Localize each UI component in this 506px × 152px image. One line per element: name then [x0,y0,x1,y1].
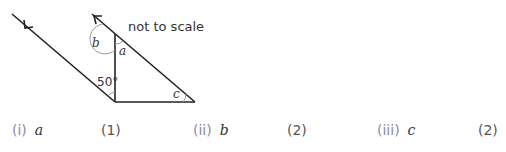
not-to-scale-label: not to scale [128,19,204,34]
question-variable: b [220,122,229,138]
question-i-marks: (1) [101,122,121,138]
angle-c-label: c [173,87,180,101]
question-variable: a [35,122,43,138]
angle-50-arc [108,92,115,96]
angle-b-label: b [92,36,100,50]
question-iii: (iii)c [377,122,415,138]
question-number: (ii) [193,122,212,138]
arrow-icon [24,20,33,28]
geometry-diagram: not to scale b a 50° c [0,0,506,115]
question-variable: c [408,122,416,138]
angle-c-arc [183,94,186,102]
question-number: (iii) [377,122,400,138]
question-iii-marks: (2) [478,122,498,138]
angle-50-label: 50° [97,75,118,89]
angle-a-label: a [119,44,126,58]
question-ii: (ii)b [193,122,229,138]
question-number: (i) [12,122,27,138]
question-ii-marks: (2) [287,122,307,138]
question-i: (i)a [12,122,43,138]
